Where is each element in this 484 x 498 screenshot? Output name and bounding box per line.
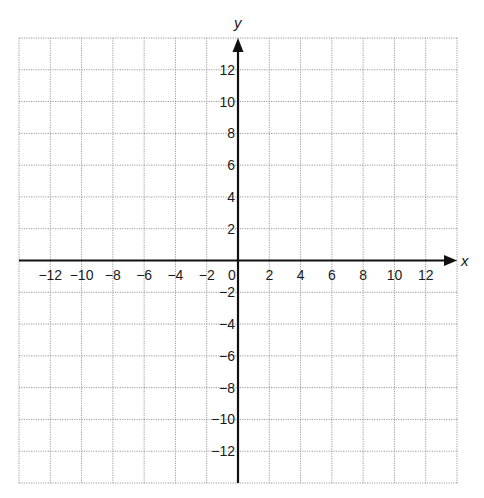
coordinate-plane: x y −12−10−8−6−4−2024681012 −12−10−8−6−4… <box>0 0 484 498</box>
x-tick-label: 6 <box>328 267 336 283</box>
x-tick-label: 0 <box>228 267 236 283</box>
x-tick-label: −4 <box>167 267 183 283</box>
y-tick-label: −8 <box>219 380 235 396</box>
x-tick-label: 2 <box>265 267 273 283</box>
x-tick-label: −12 <box>38 267 62 283</box>
x-tick-label: −8 <box>105 267 121 283</box>
x-tick-labels: −12−10−8−6−4−2024681012 <box>38 267 433 283</box>
y-tick-label: 6 <box>227 157 235 173</box>
x-tick-label: 12 <box>418 267 434 283</box>
x-tick-label: −2 <box>199 267 215 283</box>
y-tick-label: 4 <box>227 189 235 205</box>
y-axis-arrow-icon <box>233 38 244 52</box>
x-tick-label: 8 <box>359 267 367 283</box>
y-tick-label: −10 <box>211 411 235 427</box>
x-tick-label: 4 <box>297 267 305 283</box>
x-tick-label: −6 <box>136 267 152 283</box>
y-tick-label: −4 <box>219 316 235 332</box>
y-axis-label: y <box>233 14 243 31</box>
axes <box>19 38 457 483</box>
x-axis-label: x <box>460 252 469 269</box>
x-tick-label: 10 <box>387 267 403 283</box>
y-tick-label: 2 <box>227 221 235 237</box>
y-tick-label: 12 <box>219 62 235 78</box>
x-tick-label: −10 <box>70 267 94 283</box>
y-tick-label: −12 <box>211 443 235 459</box>
y-tick-label: −2 <box>219 284 235 300</box>
y-tick-label: −6 <box>219 348 235 364</box>
y-tick-label: 8 <box>227 125 235 141</box>
y-tick-label: 10 <box>219 94 235 110</box>
x-axis-arrow-icon <box>444 255 457 266</box>
